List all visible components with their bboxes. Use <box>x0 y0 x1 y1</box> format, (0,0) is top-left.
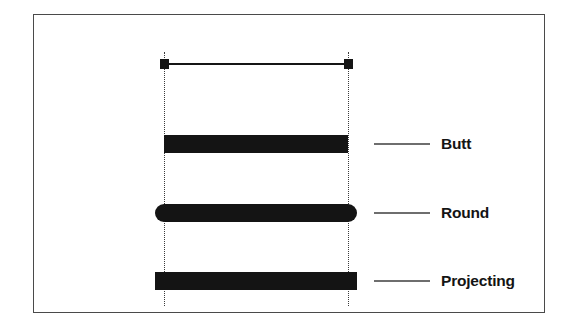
reference-line <box>164 63 348 65</box>
callout-label-projecting: Projecting <box>441 272 515 290</box>
figure-frame: Butt Round Projecting <box>33 14 545 313</box>
leader-line-projecting <box>374 280 430 281</box>
callout-label-round: Round <box>441 204 489 222</box>
right-guide-line <box>348 52 349 306</box>
round-cap-stroke <box>155 204 357 222</box>
callout-round: Round <box>374 204 489 222</box>
callout-label-butt: Butt <box>441 135 471 153</box>
leader-line-round <box>374 212 430 213</box>
projecting-cap-stroke <box>155 272 357 290</box>
reference-line-end-marker-icon <box>344 59 353 69</box>
left-guide-line <box>164 52 165 306</box>
callout-butt: Butt <box>374 135 471 153</box>
leader-line-butt <box>374 143 430 144</box>
butt-cap-stroke <box>164 135 348 153</box>
reference-line-start-marker-icon <box>160 59 169 69</box>
callout-projecting: Projecting <box>374 272 515 290</box>
line-cap-diagram: Butt Round Projecting <box>0 0 576 330</box>
